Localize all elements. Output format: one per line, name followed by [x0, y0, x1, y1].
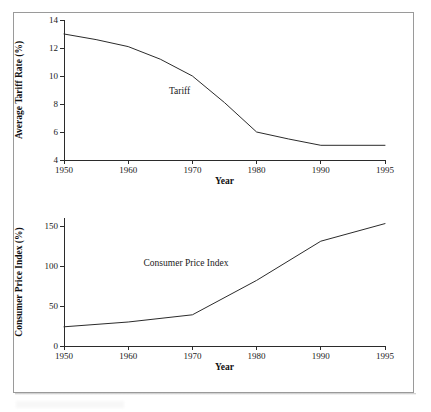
x-tick-label: 1980 — [248, 165, 267, 175]
y-tick-label: 50 — [49, 301, 59, 311]
y-tick-label: 4 — [54, 155, 59, 165]
y-axis-title: Consumer Price Index (%) — [14, 227, 25, 336]
data-series-line — [64, 34, 385, 145]
x-tick-label: 1970 — [183, 165, 202, 175]
cpi-plot-svg: 050100150195019601970198019901995YearCon… — [0, 196, 401, 381]
y-tick-label: 12 — [49, 43, 58, 53]
chart-consumer-price-index: 050100150195019601970198019901995YearCon… — [0, 196, 401, 381]
x-tick-label: 1990 — [312, 165, 331, 175]
y-tick-label: 14 — [49, 15, 59, 25]
y-tick-label: 6 — [54, 127, 59, 137]
tariff-plot-svg: 468101214195019601970198019901995YearAve… — [0, 2, 401, 197]
x-tick-label: 1980 — [248, 351, 267, 361]
y-axis-title: Average Tariff Rate (%) — [14, 41, 25, 139]
page-artifact — [16, 401, 124, 408]
figure-frame-shadow — [15, 393, 416, 395]
x-axis-title: Year — [215, 362, 235, 372]
x-tick-label: 1960 — [119, 351, 138, 361]
y-tick-label: 150 — [45, 221, 59, 231]
y-tick-label: 8 — [54, 99, 59, 109]
x-axis-title: Year — [215, 176, 235, 186]
x-tick-label: 1950 — [55, 165, 74, 175]
chart-average-tariff-rate: 468101214195019601970198019901995YearAve… — [0, 2, 401, 197]
series-annotation-label: Consumer Price Index — [144, 258, 229, 268]
data-series-line — [64, 224, 385, 327]
y-tick-label: 0 — [54, 341, 59, 351]
x-tick-label: 1960 — [119, 165, 138, 175]
x-tick-label: 1995 — [376, 165, 395, 175]
series-annotation-label: Tariff — [169, 86, 191, 96]
x-tick-label: 1950 — [55, 351, 74, 361]
x-tick-label: 1990 — [312, 351, 331, 361]
x-tick-label: 1970 — [183, 351, 202, 361]
x-tick-label: 1995 — [376, 351, 395, 361]
y-tick-label: 10 — [49, 71, 59, 81]
y-tick-label: 100 — [45, 261, 59, 271]
